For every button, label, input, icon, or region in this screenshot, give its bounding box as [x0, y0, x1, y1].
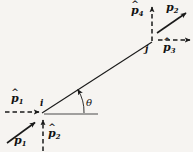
circumflex-icon: ^ [163, 37, 171, 46]
force-label-p-hat-3: ^p3 [163, 42, 176, 55]
force-label-p-hat-1: ^p1 [11, 93, 24, 106]
p-hat-2-subscript: 2 [56, 133, 61, 141]
force-label-p-2: p2 [166, 2, 179, 15]
p-1-subscript: 1 [22, 140, 27, 148]
p-hat-3-subscript: 3 [171, 47, 176, 55]
force-label-p-1: p1 [14, 135, 27, 148]
p-2-letter: p [166, 1, 174, 14]
p-hat-2-base: ^p [48, 128, 56, 139]
circumflex-icon: ^ [11, 88, 19, 97]
member-line-ij [42, 42, 152, 113]
angle-label-theta: θ [86, 98, 92, 108]
p-2-arrow [157, 13, 186, 33]
p-2-subscript: 2 [174, 7, 179, 15]
p-hat-4-subscript: 4 [139, 10, 144, 18]
diagram-svg [0, 0, 193, 152]
theta-arc [78, 90, 84, 113]
force-label-p-hat-4: ^p4 [131, 5, 144, 18]
p-hat-1-base: ^p [11, 93, 19, 104]
node-label-i: i [40, 99, 43, 108]
p-hat-4-base: ^p [131, 5, 139, 16]
p-1-letter: p [14, 134, 22, 147]
p-hat-1-subscript: 1 [19, 98, 24, 106]
circumflex-icon: ^ [48, 123, 56, 132]
force-label-p-hat-2: ^p2 [48, 128, 61, 141]
p-hat-3-base: ^p [163, 42, 171, 53]
figure-canvas: i j θ ^p1 p1 ^p2 ^p4 p2 ^p3 [0, 0, 193, 152]
circumflex-icon: ^ [131, 0, 139, 9]
node-label-j: j [145, 45, 148, 54]
